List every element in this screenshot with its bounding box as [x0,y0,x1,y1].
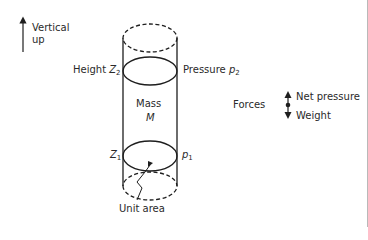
top-dashed-ellipse [123,24,177,52]
unit-area-label: Unit area [119,203,165,215]
unit-area-pointer-icon [137,161,153,200]
vertical-label-line2: up [32,34,69,46]
vertical-label-line1: Vertical [32,22,69,34]
lower-cross-section [123,141,177,171]
pressure-p1-label: p1 [182,149,193,161]
pressure-p2-label: Pressure p2 [183,64,240,76]
vertical-up-label: Vertical up [32,22,69,46]
upper-cross-section [123,57,177,85]
height-z1-label: Z1 [110,149,121,161]
mass-label: Mass [136,98,161,110]
weight-label: Weight [296,110,331,122]
forces-arrow-icon [285,91,292,119]
mass-symbol: M [146,112,155,124]
height-z2-label: Height Z2 [73,64,121,76]
forces-label: Forces [233,99,265,111]
net-pressure-label: Net pressure [296,91,360,103]
bottom-dashed-ellipse [123,172,177,200]
